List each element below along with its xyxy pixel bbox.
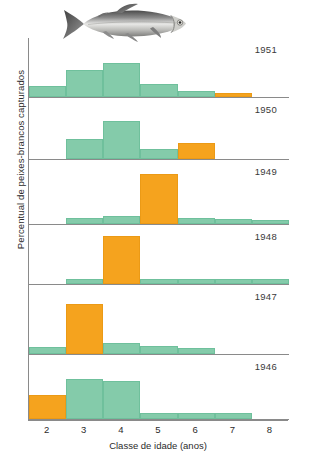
x-tick-label: 3 — [74, 424, 94, 435]
bar — [103, 63, 140, 97]
bar — [215, 413, 252, 419]
panel-1947: 1947 — [29, 285, 289, 355]
bar — [178, 91, 215, 97]
bar — [215, 279, 252, 284]
bar-highlight-cohort — [66, 304, 103, 354]
bar-group — [29, 160, 289, 224]
x-axis-label: Classe de idade (anos) — [28, 440, 288, 451]
bar — [103, 343, 140, 354]
bar-highlight-cohort — [215, 93, 252, 97]
bar — [29, 347, 66, 354]
x-tick-label: 8 — [259, 424, 279, 435]
bar — [66, 218, 103, 224]
bar — [140, 413, 177, 419]
bar — [29, 86, 66, 97]
bar — [178, 413, 215, 419]
bar — [252, 220, 289, 224]
panel-1950: 1950 — [29, 98, 289, 160]
x-axis-ticks: 2345678 — [28, 422, 288, 438]
bar-highlight-cohort — [29, 395, 66, 419]
bar — [215, 219, 252, 224]
bar-group — [29, 98, 289, 159]
bar — [178, 279, 215, 284]
chart-figure: Percentual de peixes-brancos capturados … — [0, 0, 310, 458]
panel-1948: 1948 — [29, 225, 289, 285]
bar — [66, 279, 103, 284]
x-tick-label: 7 — [222, 424, 242, 435]
bar-group — [29, 355, 289, 419]
bar — [66, 139, 103, 159]
bar — [140, 84, 177, 97]
y-axis-label: Percentual de peixes-brancos capturados — [15, 44, 26, 276]
bar — [103, 381, 140, 419]
panel-1951: 1951 — [29, 38, 289, 98]
bar — [103, 121, 140, 159]
x-tick-label: 6 — [185, 424, 205, 435]
x-axis-line — [28, 420, 288, 421]
bar — [178, 218, 215, 224]
bar-highlight-cohort — [140, 174, 177, 224]
bar — [252, 279, 289, 284]
x-tick-label: 2 — [37, 424, 57, 435]
bar — [66, 70, 103, 97]
bar — [140, 346, 177, 354]
bar — [66, 379, 103, 419]
bar-group — [29, 38, 289, 97]
panel-1946: 1946 — [29, 355, 289, 420]
panel-1949: 1949 — [29, 160, 289, 225]
bar-highlight-cohort — [103, 236, 140, 284]
panel-stack: 1951 1950 1949 1948 1947 1946 — [28, 38, 289, 420]
bar — [140, 149, 177, 159]
bar-group — [29, 225, 289, 284]
x-tick-label: 4 — [111, 424, 131, 435]
bar-group — [29, 285, 289, 354]
bar — [178, 348, 215, 354]
bar — [103, 216, 140, 224]
bar — [140, 279, 177, 284]
x-tick-label: 5 — [148, 424, 168, 435]
bar-highlight-cohort — [178, 143, 215, 159]
